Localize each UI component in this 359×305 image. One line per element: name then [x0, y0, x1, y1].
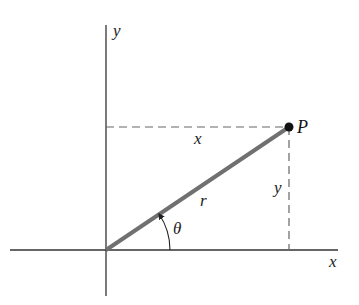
y-axis-label: y: [111, 21, 121, 40]
horizontal-leg-label: x: [193, 129, 202, 148]
angle-arc: [159, 214, 170, 250]
polar-coordinate-diagram: y x P x y r θ: [0, 0, 359, 305]
x-axis-label: x: [328, 252, 337, 271]
angle-label: θ: [173, 219, 181, 238]
vertical-leg-label: y: [272, 178, 282, 197]
point-p: [285, 123, 294, 132]
point-label: P: [296, 117, 308, 137]
radius-label: r: [200, 191, 207, 210]
